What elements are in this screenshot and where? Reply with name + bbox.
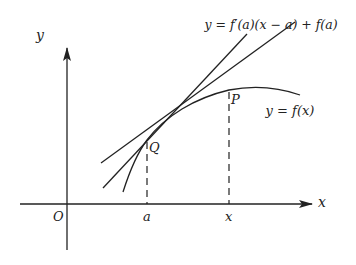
tangent-line [103,34,247,188]
tick-label-a: a [143,209,151,224]
x-axis-label: x [318,194,326,210]
secant-line [101,22,295,163]
tangent-secant-diagram: y x O a x Q P y = f(x) y = f′(a)(x − a) … [0,0,356,265]
point-label-q: Q [149,140,160,155]
tick-label-x: x [225,209,233,224]
point-label-p: P [230,92,240,107]
tangent-line-label: y = f′(a)(x − a) + f(a) [203,17,337,32]
curve-label: y = f(x) [265,103,315,118]
origin-label: O [53,209,64,224]
y-axis-label: y [35,27,45,43]
